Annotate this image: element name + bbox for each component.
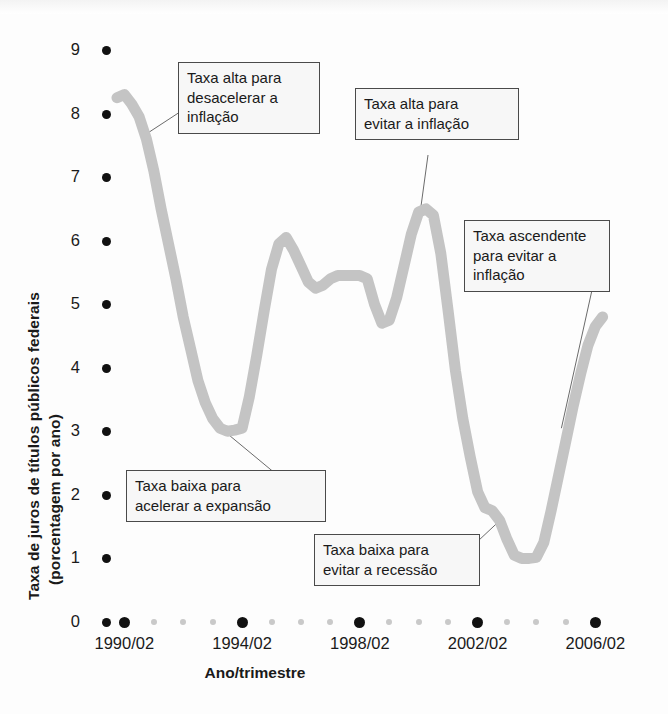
annotation-low-rate-accelerate-expansion: Taxa baixa para acelerar a expansão [126, 470, 326, 522]
annotation-high-rate-slow-inflation: Taxa alta para desacelerar a inflação [178, 62, 320, 134]
plot-area [0, 0, 668, 714]
leader-line-a4 [223, 430, 276, 474]
annotation-low-rate-avoid-recession: Taxa baixa para evitar a recessão [314, 534, 480, 586]
chart-figure: Taxa de juros de títulos públicos federa… [0, 0, 668, 714]
annotation-high-rate-avoid-inflation: Taxa alta para evitar a inflação [355, 88, 519, 140]
annotation-rising-rate-avoid-inflation: Taxa ascendente para evitar a inflação [464, 220, 610, 292]
